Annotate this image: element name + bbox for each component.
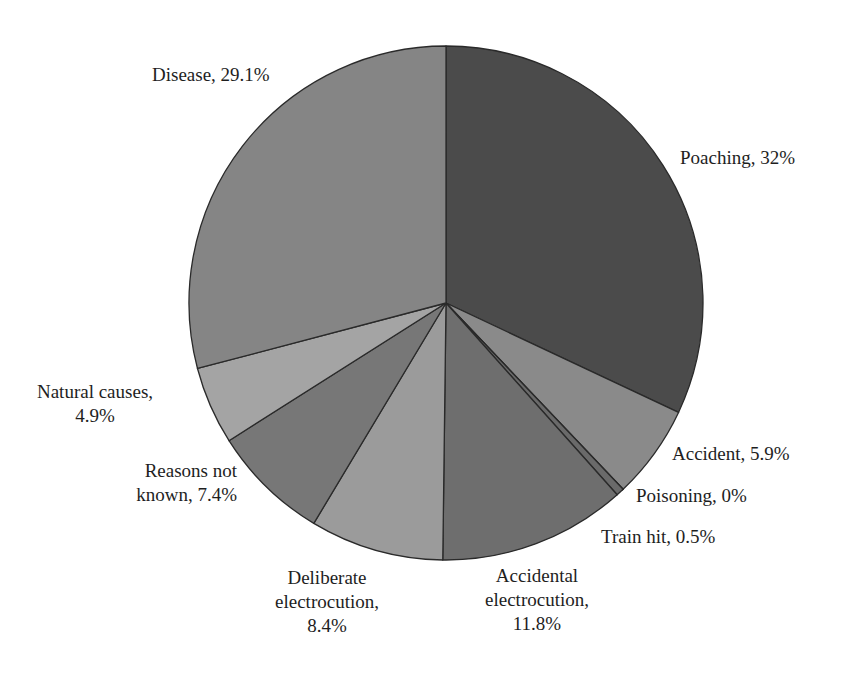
label-text: Deliberate bbox=[252, 566, 402, 590]
label-text: electrocution, bbox=[462, 588, 612, 612]
label-text: Disease, 29.1% bbox=[152, 63, 270, 87]
label-text: Poaching, 32% bbox=[680, 146, 795, 170]
label-accidental-electrocution: Accidental electrocution, 11.8% bbox=[462, 564, 612, 636]
label-text: Reasons not bbox=[100, 459, 237, 483]
label-reasons-not-known: Reasons not known, 7.4% bbox=[100, 459, 237, 507]
label-text: known, 7.4% bbox=[100, 483, 237, 507]
label-text: Natural causes, bbox=[30, 380, 160, 404]
label-text: electrocution, bbox=[252, 590, 402, 614]
label-disease: Disease, 29.1% bbox=[152, 63, 270, 87]
label-accident: Accident, 5.9% bbox=[672, 442, 790, 466]
label-poaching: Poaching, 32% bbox=[680, 146, 795, 170]
label-text: Accident, 5.9% bbox=[672, 442, 790, 466]
label-deliberate-electrocution: Deliberate electrocution, 8.4% bbox=[252, 566, 402, 638]
pie-slices bbox=[189, 46, 703, 560]
label-text: Poisoning, 0% bbox=[636, 484, 747, 508]
pie-chart bbox=[0, 0, 852, 676]
label-train-hit: Train hit, 0.5% bbox=[601, 525, 715, 549]
label-text: 11.8% bbox=[462, 612, 612, 636]
label-text: Train hit, 0.5% bbox=[601, 525, 715, 549]
label-natural-causes: Natural causes, 4.9% bbox=[30, 380, 160, 428]
label-text: 4.9% bbox=[30, 404, 160, 428]
label-text: 8.4% bbox=[252, 614, 402, 638]
label-poisoning: Poisoning, 0% bbox=[636, 484, 747, 508]
label-text: Accidental bbox=[462, 564, 612, 588]
